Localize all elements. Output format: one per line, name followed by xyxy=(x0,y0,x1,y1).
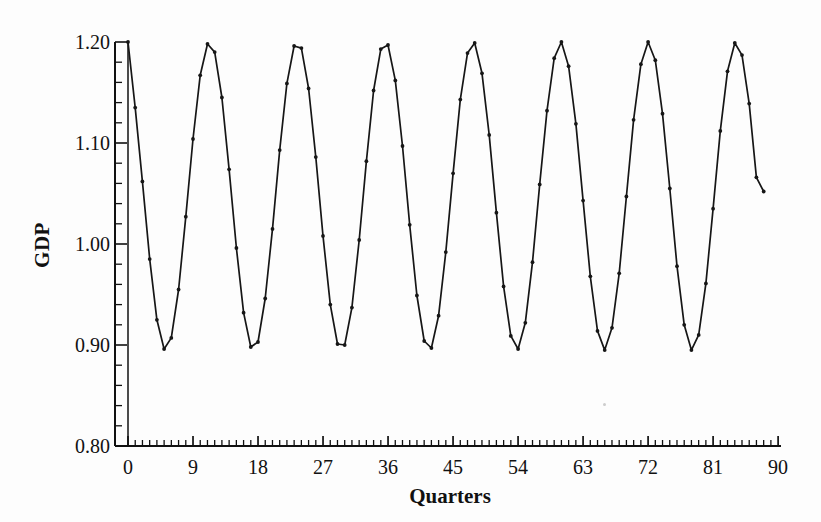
data-point xyxy=(567,64,571,68)
data-point xyxy=(336,342,340,346)
data-point xyxy=(372,89,376,93)
scan-artifact-dot xyxy=(603,403,606,406)
data-point xyxy=(531,260,535,264)
data-point xyxy=(690,348,694,352)
data-point xyxy=(639,62,643,66)
data-point xyxy=(538,183,542,187)
data-point xyxy=(466,51,470,55)
data-point xyxy=(661,112,665,116)
gdp-series-line xyxy=(128,42,764,350)
data-point xyxy=(220,96,224,100)
data-point xyxy=(610,326,614,330)
data-point xyxy=(596,329,600,333)
data-point xyxy=(263,297,267,301)
data-point xyxy=(213,50,217,54)
data-point xyxy=(653,58,657,62)
data-point xyxy=(415,294,419,298)
data-point xyxy=(249,345,253,349)
data-point xyxy=(155,318,159,322)
gdp-business-cycle-chart: 0.800.901.001.101.2009182736455463728190… xyxy=(0,0,821,522)
data-point xyxy=(169,336,173,340)
data-point xyxy=(718,129,722,133)
data-point xyxy=(242,311,246,315)
data-point xyxy=(328,303,332,307)
data-point xyxy=(422,339,426,343)
data-point xyxy=(581,199,585,203)
data-point xyxy=(227,167,231,171)
data-point xyxy=(675,264,679,268)
data-point xyxy=(430,346,434,350)
data-point xyxy=(451,171,455,175)
y-tick-label: 1.20 xyxy=(75,31,110,53)
data-point xyxy=(552,56,556,60)
data-point xyxy=(747,102,751,106)
data-point xyxy=(278,148,282,152)
data-point xyxy=(401,144,405,148)
x-tick-label: 27 xyxy=(313,456,333,478)
data-point xyxy=(682,323,686,327)
data-point xyxy=(502,285,506,289)
data-point xyxy=(126,40,130,44)
data-point xyxy=(198,73,202,77)
data-point xyxy=(574,122,578,126)
data-point xyxy=(365,159,369,163)
data-point xyxy=(256,340,260,344)
data-point xyxy=(133,106,137,110)
data-point xyxy=(307,87,311,91)
data-point xyxy=(300,46,304,50)
data-point xyxy=(733,41,737,45)
data-point xyxy=(632,118,636,122)
data-point xyxy=(509,334,513,338)
data-point xyxy=(480,71,484,75)
data-point xyxy=(350,306,354,310)
data-point xyxy=(235,246,239,250)
x-tick-label: 36 xyxy=(378,456,398,478)
data-point xyxy=(271,227,275,231)
data-point xyxy=(393,79,397,83)
y-tick-label: 0.80 xyxy=(75,435,110,457)
data-point xyxy=(141,180,145,184)
y-tick-label: 1.10 xyxy=(75,132,110,154)
data-point xyxy=(314,155,318,159)
data-point xyxy=(603,348,607,352)
x-tick-label: 81 xyxy=(703,456,723,478)
data-point xyxy=(704,282,708,286)
data-point xyxy=(726,69,730,73)
data-point xyxy=(740,53,744,57)
data-point xyxy=(516,347,520,351)
data-point xyxy=(292,44,296,48)
data-point xyxy=(357,238,361,242)
x-tick-label: 54 xyxy=(508,456,528,478)
data-point xyxy=(523,321,527,325)
data-point xyxy=(762,190,766,194)
data-point xyxy=(617,271,621,275)
x-tick-label: 72 xyxy=(638,456,658,478)
data-point xyxy=(437,314,441,318)
x-axis-title: Quarters xyxy=(409,484,491,509)
data-point xyxy=(588,274,592,278)
data-point xyxy=(386,43,390,47)
data-point xyxy=(444,250,448,254)
data-point xyxy=(697,333,701,337)
plot-area: 0.800.901.001.101.2009182736455463728190 xyxy=(0,0,821,522)
x-tick-label: 90 xyxy=(768,456,788,478)
data-point xyxy=(206,42,210,46)
data-point xyxy=(668,187,672,191)
data-point xyxy=(755,175,759,179)
data-point xyxy=(711,207,715,211)
x-tick-label: 0 xyxy=(123,456,133,478)
data-point xyxy=(162,347,166,351)
y-tick-label: 1.00 xyxy=(75,233,110,255)
x-tick-label: 63 xyxy=(573,456,593,478)
data-point xyxy=(646,40,650,44)
data-point xyxy=(625,195,629,199)
data-point xyxy=(545,109,549,113)
x-tick-label: 18 xyxy=(248,456,268,478)
data-point xyxy=(285,82,289,86)
data-point xyxy=(473,41,477,45)
y-axis-title: GDP xyxy=(30,222,55,268)
data-point xyxy=(191,137,195,141)
data-point xyxy=(495,211,499,215)
data-point xyxy=(177,288,181,292)
x-tick-label: 9 xyxy=(188,456,198,478)
